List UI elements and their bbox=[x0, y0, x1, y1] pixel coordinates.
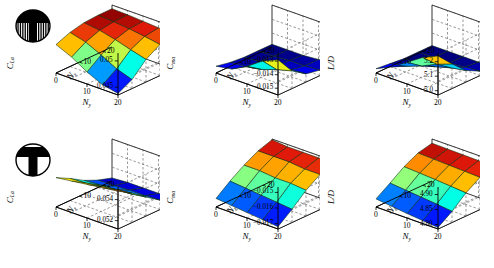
panel-bottom-left: 0.0520.054201001020CLaNyNz bbox=[0, 134, 160, 268]
figure-surface-plot-grid: 0.0450.05201001020CLaNyNz−0.015−0.014−0.… bbox=[0, 0, 494, 268]
z-axis-label: L/D bbox=[326, 56, 336, 70]
panel-bottom-middle: −0.017−0.016−0.015201001020CmaNyNz bbox=[160, 134, 320, 268]
surface-plot-canvas bbox=[320, 0, 480, 134]
panel-bottom-right: 4.804.854.90201001020L/DNyNz bbox=[320, 134, 480, 268]
z-axis-label: L/D bbox=[326, 190, 336, 204]
x-axis-label: Ny bbox=[83, 231, 92, 242]
z-tick-label: −0.014 bbox=[253, 70, 273, 78]
z-tick-label: −0.016 bbox=[253, 203, 273, 211]
x-tick-label: 20 bbox=[434, 232, 442, 241]
panel-top-middle: −0.015−0.014−0.013201001020CmaNyNz bbox=[160, 0, 320, 134]
x-tick-label: 20 bbox=[274, 98, 282, 107]
x-tick-label: 20 bbox=[274, 232, 282, 241]
depth-tick-label: 10 bbox=[84, 191, 92, 200]
x-tick-label: 10 bbox=[403, 87, 411, 96]
x-tick-label: 10 bbox=[83, 221, 91, 230]
x-tick-label: 0 bbox=[374, 76, 378, 85]
depth-tick-label: 10 bbox=[404, 191, 412, 200]
x-axis-label: Ny bbox=[243, 231, 252, 242]
panel-top-right: 5.05.15.2201001020L/DNyNz bbox=[320, 0, 480, 134]
x-tick-label: 0 bbox=[54, 210, 58, 219]
z-tick-label: 5.0 bbox=[424, 86, 433, 94]
z-tick-label: 0.05 bbox=[100, 56, 113, 64]
surface-plot-canvas bbox=[160, 0, 320, 134]
z-tick-label: 0.045 bbox=[97, 82, 113, 90]
x-tick-label: 0 bbox=[54, 76, 58, 85]
z-tick-label: 5.2 bbox=[424, 57, 433, 65]
z-tick-label: 4.90 bbox=[420, 190, 433, 198]
x-tick-label: 20 bbox=[434, 98, 442, 107]
z-tick-label: 5.1 bbox=[424, 71, 433, 79]
z-axis-label: Cma bbox=[165, 191, 176, 204]
z-tick-label: 4.80 bbox=[420, 220, 433, 228]
depth-tick-label: 10 bbox=[404, 57, 412, 66]
z-axis-label: CLa bbox=[5, 57, 16, 69]
z-tick-label: 0.054 bbox=[97, 195, 113, 203]
x-tick-label: 10 bbox=[403, 221, 411, 230]
z-axis-label: Cma bbox=[165, 57, 176, 70]
depth-tick-label: 20 bbox=[427, 180, 435, 189]
x-tick-label: 10 bbox=[83, 87, 91, 96]
x-tick-label: 0 bbox=[374, 210, 378, 219]
x-tick-label: 0 bbox=[214, 76, 218, 85]
depth-tick-label: 10 bbox=[84, 57, 92, 66]
config-icon-bottom bbox=[12, 140, 54, 180]
z-tick-label: 0.052 bbox=[97, 216, 113, 224]
depth-tick-label: 10 bbox=[244, 191, 252, 200]
surface-plot-canvas bbox=[320, 134, 480, 268]
x-tick-label: 10 bbox=[243, 221, 251, 230]
depth-tick-label: 20 bbox=[267, 46, 275, 55]
z-tick-label: 4.85 bbox=[420, 205, 433, 213]
depth-tick-label: 20 bbox=[107, 46, 115, 55]
x-tick-label: 0 bbox=[214, 210, 218, 219]
z-tick-label: −0.013 bbox=[253, 56, 273, 64]
panel-top-left: 0.0450.05201001020CLaNyNz bbox=[0, 0, 160, 134]
x-axis-label: Ny bbox=[243, 97, 252, 108]
x-axis-label: Ny bbox=[403, 97, 412, 108]
x-tick-label: 20 bbox=[114, 98, 122, 107]
z-tick-label: −0.017 bbox=[253, 219, 273, 227]
depth-tick-label: 10 bbox=[244, 57, 252, 66]
z-axis-label: CLa bbox=[5, 191, 16, 203]
x-tick-label: 20 bbox=[114, 232, 122, 241]
x-axis-label: Ny bbox=[83, 97, 92, 108]
depth-tick-label: 20 bbox=[267, 180, 275, 189]
config-icon-top bbox=[12, 6, 54, 46]
depth-tick-label: 20 bbox=[427, 46, 435, 55]
x-tick-label: 10 bbox=[243, 87, 251, 96]
surface-plot-canvas bbox=[160, 134, 320, 268]
depth-tick-label: 20 bbox=[107, 180, 115, 189]
x-axis-label: Ny bbox=[403, 231, 412, 242]
z-tick-label: −0.015 bbox=[253, 83, 273, 91]
